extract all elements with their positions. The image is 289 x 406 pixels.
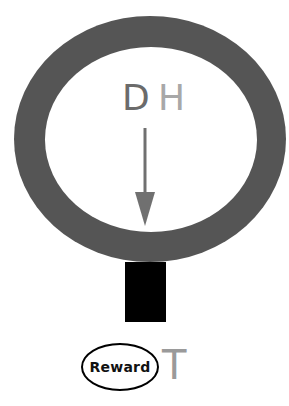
label-h: H: [158, 80, 185, 116]
label-d: D: [122, 80, 150, 116]
stem-bar: [125, 262, 166, 322]
reward-node: Reward: [81, 343, 159, 391]
down-arrow-icon: [130, 126, 160, 228]
reward-label: Reward: [90, 359, 151, 375]
label-t: T: [162, 345, 186, 385]
